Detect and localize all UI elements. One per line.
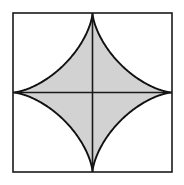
astroid-figure-svg [0, 0, 184, 185]
figure-canvas [0, 0, 184, 185]
